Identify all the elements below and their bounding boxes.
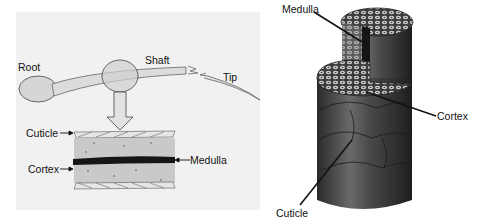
hair-strand-illustration: Root Shaft Tip Cuticle Cortex Medulla: [16, 12, 260, 210]
hair-3d-illustration: Medulla Cortex Cuticle: [262, 0, 479, 222]
label-root: Root: [18, 61, 40, 73]
label-cuticle: Cuticle: [26, 127, 58, 139]
label-medulla-3d: Medulla: [282, 3, 319, 15]
hair-cylinder: [317, 8, 413, 209]
label-cuticle-3d: Cuticle: [276, 207, 308, 219]
label-cortex-3d: Cortex: [437, 110, 469, 122]
hair-cross-section: [73, 131, 175, 189]
label-medulla: Medulla: [190, 154, 227, 166]
label-tip: Tip: [223, 71, 237, 83]
label-cortex: Cortex: [28, 163, 60, 175]
hair-3d-structure-diagram: Medulla Cortex Cuticle: [262, 0, 479, 222]
down-arrow-icon: [107, 92, 133, 130]
hair-strand-diagram: Root Shaft Tip Cuticle Cortex Medulla: [16, 12, 260, 210]
label-shaft: Shaft: [145, 54, 170, 66]
